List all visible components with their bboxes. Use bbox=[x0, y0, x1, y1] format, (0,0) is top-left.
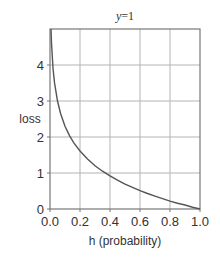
x-tick-label: 0.2 bbox=[71, 214, 89, 229]
x-tick-labels: 0.00.20.40.60.81.0 bbox=[41, 214, 209, 229]
plot-frame bbox=[50, 29, 200, 209]
y-tick-label: 3 bbox=[37, 94, 44, 109]
y-tick-labels: 01234 bbox=[37, 58, 44, 217]
x-tick-label: 0.8 bbox=[161, 214, 179, 229]
chart-title-rest: =1 bbox=[121, 9, 134, 23]
loss-chart: y=1 01234 0.00.20.40.60.81.0 loss h (pro… bbox=[0, 0, 220, 260]
y-axis-label: loss bbox=[19, 112, 40, 126]
y-tick-label: 4 bbox=[37, 58, 44, 73]
grid-lines bbox=[50, 29, 200, 209]
y-tick-label: 1 bbox=[37, 166, 44, 181]
x-tick-label: 0.4 bbox=[101, 214, 119, 229]
loss-curve bbox=[51, 29, 200, 209]
x-axis-label: h (probability) bbox=[89, 234, 162, 248]
x-tick-label: 0.6 bbox=[131, 214, 149, 229]
x-tick-label: 0.0 bbox=[41, 214, 59, 229]
axis-ticks bbox=[47, 65, 200, 212]
y-tick-label: 2 bbox=[37, 130, 44, 145]
chart-title: y=1 bbox=[115, 9, 134, 23]
x-tick-label: 1.0 bbox=[191, 214, 209, 229]
